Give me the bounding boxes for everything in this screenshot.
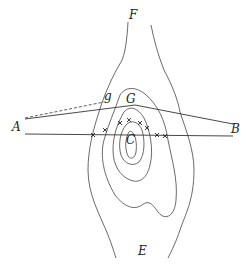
label-a: A [12,121,21,133]
label-c: C [126,134,135,146]
dashed-line-a-g [25,102,104,118]
label-g: G [126,93,136,105]
label-f: F [129,9,137,21]
outer-contour-left [88,22,128,258]
outer-contour-right [151,25,194,258]
label-b: B [231,123,240,135]
label-e: E [138,245,147,257]
line-a-g-b [25,105,233,124]
label-g-small: g [104,90,112,102]
contour-diagram [0,0,250,268]
